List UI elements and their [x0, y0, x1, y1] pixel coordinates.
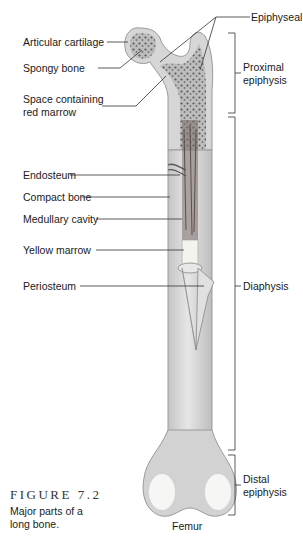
- label-medullary-cavity: Medullary cavity: [23, 213, 98, 225]
- figure-caption: Major parts of a long bone.: [10, 505, 100, 531]
- label-epiphyseal-plates: Epiphyseal plates: [251, 11, 303, 23]
- label-distal: Distal: [243, 473, 269, 485]
- label-proximal: Proximal: [243, 61, 284, 73]
- label-diaphysis: Diaphysis: [243, 280, 289, 292]
- label-distal-epiphysis: epiphysis: [243, 486, 287, 498]
- label-compact-bone: Compact bone: [23, 191, 91, 203]
- label-femur: Femur: [172, 520, 202, 532]
- figure-number: FIGURE 7.2: [10, 487, 101, 503]
- label-spongy-bone: Spongy bone: [23, 62, 85, 74]
- label-endosteum: Endosteum: [23, 169, 76, 181]
- proximal-epiphysis-shape: [125, 28, 213, 150]
- label-periosteum: Periosteum: [23, 280, 76, 292]
- label-proximal-epiphysis: epiphysis: [243, 74, 287, 86]
- label-space-red-marrow-2: red marrow: [23, 106, 76, 118]
- label-articular-cartilage: Articular cartilage: [23, 36, 104, 48]
- label-yellow-marrow: Yellow marrow: [23, 244, 91, 256]
- label-space-red-marrow: Space containing: [23, 93, 104, 105]
